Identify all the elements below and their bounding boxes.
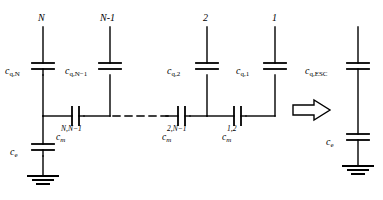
cap-label-e-left: ce xyxy=(10,142,18,159)
circuit-schematic-svg xyxy=(0,0,383,200)
circuit-lines xyxy=(28,27,373,184)
cap-label-m-N-N1-base-wrap: cm xyxy=(56,133,82,145)
node-label-1: 1 xyxy=(272,13,277,23)
node-label-N: N xyxy=(38,13,45,23)
cap-label-m-2-N1-sup: 2,N−1 xyxy=(167,125,186,133)
cap-label-q-2-sub: q,2 xyxy=(171,70,180,78)
cap-label-q-1-sub: q,1 xyxy=(240,70,249,78)
cap-label-q-N: cq,N xyxy=(5,61,20,78)
cap-label-e-left-sub: e xyxy=(14,151,17,159)
circuit-diagram: N N-1 2 1 cq,N cq,N−1 cq,2 cq,1 ce N,N−1… xyxy=(0,0,383,200)
node-label-2: 2 xyxy=(203,13,208,23)
cap-label-q-ESC: cq,ESC xyxy=(305,61,328,78)
cap-label-m-N-N1-sup: N,N−1 xyxy=(61,125,82,133)
cap-label-m-2-N1-sub: m xyxy=(166,136,171,144)
cap-label-q-N-minus-1: cq,N−1 xyxy=(65,61,87,78)
cap-label-q-ESC-sub: q,ESC xyxy=(309,70,327,78)
cap-label-q-2: cq,2 xyxy=(167,61,180,78)
cap-label-e-right: ce xyxy=(326,132,334,149)
cap-label-m-2-N1-base-wrap: cm xyxy=(162,133,186,145)
cap-label-m-1-2-sup: 1,2 xyxy=(227,125,236,133)
cap-label-e-right-sub: e xyxy=(330,141,333,149)
cap-label-m-N-N1-sub: m xyxy=(60,136,65,144)
cap-label-m-2-N1: 2,N−1 cm xyxy=(162,125,186,145)
node-label-N-minus-1: N-1 xyxy=(100,13,115,23)
implies-arrow-icon xyxy=(293,100,330,120)
cap-label-q-N-sub: q,N xyxy=(9,70,19,78)
cap-label-m-1-2-sub: m xyxy=(226,136,231,144)
cap-label-m-N-N1: N,N−1 cm xyxy=(56,125,82,145)
cap-label-q-1: cq,1 xyxy=(236,61,249,78)
cap-label-m-1-2: 1,2 cm xyxy=(222,125,236,145)
cap-label-q-N1-sub: q,N−1 xyxy=(69,70,87,78)
cap-label-m-1-2-base-wrap: cm xyxy=(222,133,236,145)
